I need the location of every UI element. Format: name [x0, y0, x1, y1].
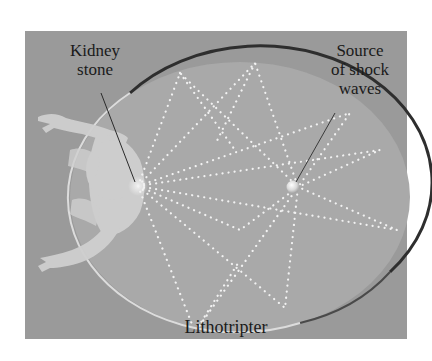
lithotripter-label: Lithotripter [170, 318, 282, 337]
shock-source-label: Source of shock waves [320, 41, 400, 98]
shock-source-label-line1: Source [320, 41, 400, 60]
kidney-stone-label: Kidney stone [58, 41, 132, 79]
kidney-stone-label-line1: Kidney [58, 41, 132, 60]
lithotripter-diagram: Kidney stone Source of shock waves Litho… [0, 0, 432, 361]
shock-source-label-line2: of shock [320, 60, 400, 79]
kidney-stone-label-line2: stone [58, 60, 132, 79]
shock-source-label-line3: waves [320, 79, 400, 98]
shock-source-focus [287, 181, 300, 194]
